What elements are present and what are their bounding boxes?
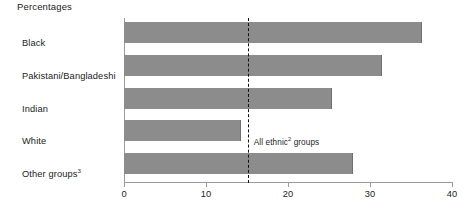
x-axis-tick-label: 40	[447, 189, 457, 199]
category-label-black: Black	[22, 38, 45, 48]
category-label-white: White	[22, 136, 46, 146]
bar-row	[124, 84, 452, 117]
bar-other-groups	[124, 153, 353, 174]
all-ethnic-groups-reference-line	[248, 18, 249, 183]
x-axis-tick	[452, 183, 453, 187]
x-axis-tick	[124, 183, 125, 187]
category-label-other-groups: Other groups3	[22, 169, 81, 179]
plot-area	[124, 18, 452, 182]
x-axis-tick	[206, 183, 207, 187]
x-axis-tick-label: 20	[283, 189, 293, 199]
x-axis-tick-label: 10	[201, 189, 211, 199]
x-axis-tick-label: 0	[121, 189, 126, 199]
x-axis-tick	[288, 183, 289, 187]
bar-black	[124, 22, 422, 43]
all-ethnic-groups-reference-label: All ethnic2 groups	[254, 138, 319, 147]
bar-white	[124, 120, 241, 141]
bar-chart-figure: Percentages Black Pakistani/Bangladeshi …	[0, 0, 476, 207]
x-axis-tick	[370, 183, 371, 187]
bar-row	[124, 51, 452, 84]
x-axis-tick-label: 30	[365, 189, 375, 199]
category-label-indian: Indian	[22, 104, 48, 114]
bar-row	[124, 18, 452, 51]
bar-indian	[124, 88, 332, 109]
bar-pakistani-bangladeshi	[124, 55, 382, 76]
bar-row	[124, 149, 452, 182]
category-label-pakistani-bangladeshi: Pakistani/Bangladeshi	[22, 71, 116, 81]
chart-title: Percentages	[17, 1, 72, 12]
